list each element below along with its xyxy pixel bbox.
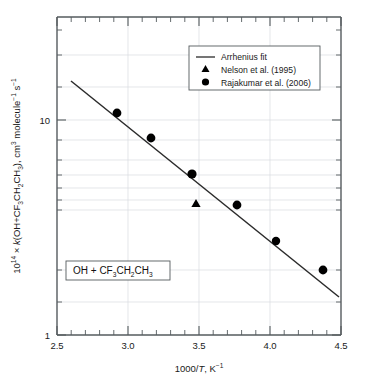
- x-tick-label: 4.5: [334, 340, 347, 351]
- x-tick-label: 3.0: [121, 340, 134, 351]
- arrhenius-plot-figure: 2.5 3.0 3.5 4.0 4.5 10 1 1000/T, K−1 101…: [0, 0, 387, 386]
- data-point-circle: [187, 169, 196, 178]
- data-point-circle: [113, 109, 122, 118]
- legend-label-arrhenius-fit: Arrhenius fit: [221, 52, 267, 62]
- data-point-circle: [147, 134, 156, 143]
- reaction-annotation: OH + CF3CH2CH3: [66, 261, 170, 280]
- legend-circle-marker-icon: [202, 78, 209, 85]
- data-point-circle: [272, 237, 280, 245]
- legend: Arrhenius fit Nelson et al. (1995) Rajak…: [189, 46, 320, 90]
- legend-label-rajakumar-2006: Rajakumar et al. (2006): [221, 78, 311, 88]
- y-tick-label: 1: [45, 330, 50, 341]
- y-axis-title: 1014 × k(OH+CF3CH2CH3), cm3 molecule−1 s…: [10, 78, 24, 274]
- data-point-circle: [233, 201, 242, 210]
- x-tick-label: 2.5: [50, 340, 63, 351]
- x-tick-label: 3.5: [192, 340, 205, 351]
- x-tick-label: 4.0: [263, 340, 276, 351]
- data-point-circle: [319, 266, 328, 275]
- legend-label-nelson-1995: Nelson et al. (1995): [221, 65, 296, 75]
- y-tick-label: 10: [39, 115, 50, 126]
